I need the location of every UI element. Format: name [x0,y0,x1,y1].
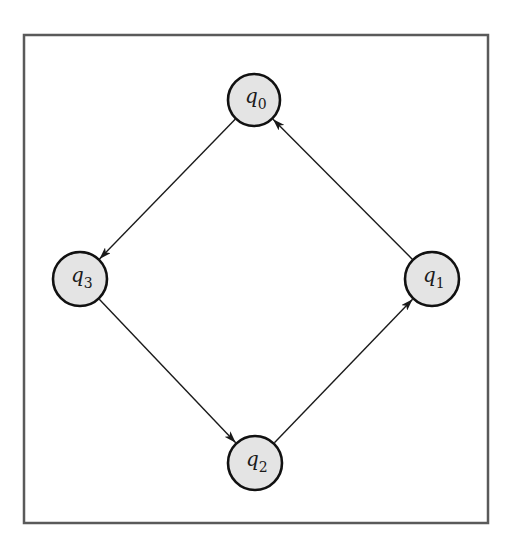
state-node-q3: q3 [53,252,107,306]
state-node-q2: q2 [228,436,282,490]
state-node-q1: q1 [405,252,459,306]
edge-q2-to-q1 [274,299,412,443]
edges-group [99,119,412,443]
state-node-q0: q0 [228,74,280,126]
edge-q1-to-q0 [273,119,412,259]
state-diagram: q0q1q2q3 [0,0,519,539]
edge-q0-to-q3 [100,119,236,259]
edge-q3-to-q2 [99,299,235,442]
nodes-group: q0q1q2q3 [53,74,459,490]
